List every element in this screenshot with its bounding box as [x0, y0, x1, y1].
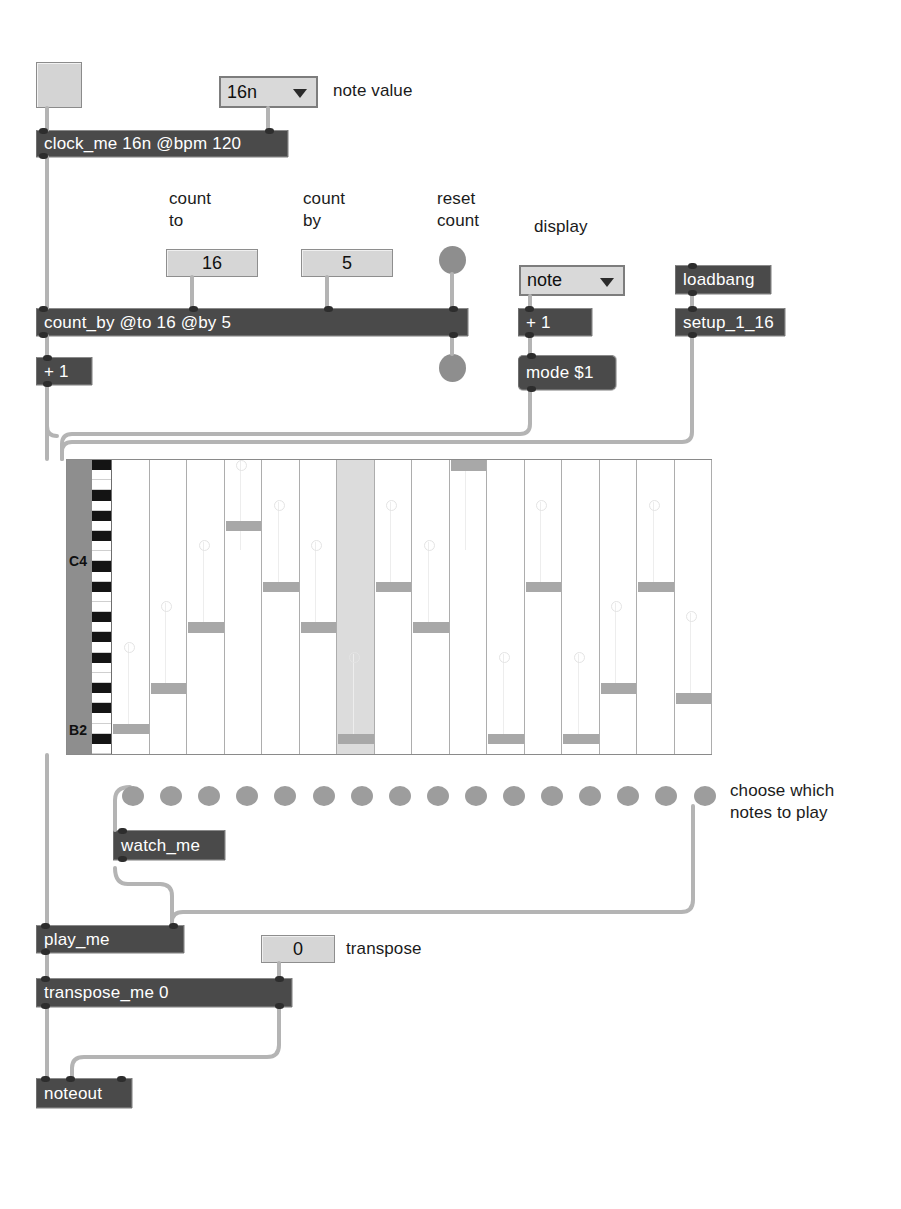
- piano-white-key[interactable]: [92, 673, 111, 683]
- piano-black-key[interactable]: [92, 561, 111, 571]
- note-toggle-dot[interactable]: [617, 786, 639, 806]
- sequencer-note[interactable]: [263, 582, 299, 593]
- piano-white-key[interactable]: [92, 551, 111, 561]
- note-head: [349, 652, 360, 663]
- note-toggle-dot[interactable]: [313, 786, 335, 806]
- piano-black-key[interactable]: [92, 734, 111, 744]
- sequencer-note[interactable]: [488, 734, 524, 745]
- object-watch-me[interactable]: watch_me: [113, 830, 225, 860]
- object-plus-one-display[interactable]: + 1: [518, 308, 592, 336]
- note-toggle-dot[interactable]: [198, 786, 220, 806]
- piano-white-key[interactable]: [92, 470, 111, 480]
- sequencer-step-column[interactable]: [412, 460, 450, 754]
- note-toggle-dot[interactable]: [236, 786, 258, 806]
- start-toggle[interactable]: [36, 62, 82, 108]
- object-noteout[interactable]: noteout: [36, 1078, 132, 1108]
- piano-white-key[interactable]: [92, 521, 111, 531]
- reset-bang-bottom[interactable]: [439, 354, 466, 382]
- piano-black-key[interactable]: [92, 531, 111, 541]
- note-toggle-dot[interactable]: [274, 786, 296, 806]
- note-toggle-dot[interactable]: [579, 786, 601, 806]
- piano-white-key[interactable]: [92, 713, 111, 723]
- sequencer-step-column[interactable]: [225, 460, 263, 754]
- count-to-comment: count to: [169, 188, 211, 232]
- note-toggle-dot[interactable]: [541, 786, 563, 806]
- sequencer-step-column[interactable]: [187, 460, 225, 754]
- sequencer-grid[interactable]: [112, 460, 711, 754]
- object-play-me[interactable]: play_me: [36, 925, 184, 953]
- note-toggle-dot[interactable]: [655, 786, 677, 806]
- display-mode-menu[interactable]: note: [519, 265, 625, 296]
- sequencer-note[interactable]: [188, 622, 224, 633]
- reset-bang-top[interactable]: [439, 246, 466, 274]
- object-count-by[interactable]: count_by @to 16 @by 5: [36, 308, 468, 336]
- piano-white-key[interactable]: [92, 693, 111, 703]
- piano-black-key[interactable]: [92, 511, 111, 521]
- piano-white-key[interactable]: [92, 663, 111, 673]
- piano-white-key[interactable]: [92, 642, 111, 652]
- object-plus-one-left[interactable]: + 1: [36, 357, 92, 385]
- piano-white-key[interactable]: [92, 622, 111, 632]
- piano-white-key[interactable]: [92, 480, 111, 490]
- sequencer-note[interactable]: [563, 734, 599, 745]
- piano-white-key[interactable]: [92, 724, 111, 734]
- outlet: [39, 332, 48, 338]
- note-toggle-dot[interactable]: [503, 786, 525, 806]
- piano-white-key[interactable]: [92, 501, 111, 511]
- sequencer-note[interactable]: [638, 582, 674, 593]
- piano-black-key[interactable]: [92, 703, 111, 713]
- sequencer-note[interactable]: [451, 460, 487, 471]
- piano-keyboard[interactable]: [92, 460, 112, 754]
- note-toggle-dot[interactable]: [389, 786, 411, 806]
- object-clock-me[interactable]: clock_me 16n @bpm 120: [36, 130, 288, 157]
- transpose-number[interactable]: 0: [261, 935, 335, 963]
- piano-black-key[interactable]: [92, 460, 111, 470]
- piano-black-key[interactable]: [92, 582, 111, 592]
- sequencer-note[interactable]: [151, 683, 187, 694]
- piano-white-key[interactable]: [92, 744, 111, 754]
- sequencer-step-column[interactable]: [675, 460, 713, 754]
- step-sequencer[interactable]: C4 B2: [66, 459, 712, 755]
- sequencer-step-column[interactable]: [337, 460, 375, 754]
- piano-white-key[interactable]: [92, 541, 111, 551]
- display-comment: display: [534, 216, 588, 238]
- note-toggle-dot[interactable]: [465, 786, 487, 806]
- piano-white-key[interactable]: [92, 572, 111, 582]
- piano-black-key[interactable]: [92, 490, 111, 500]
- piano-black-key[interactable]: [92, 612, 111, 622]
- note-toggle-dot[interactable]: [694, 786, 716, 806]
- piano-white-key[interactable]: [92, 602, 111, 612]
- count-by-number[interactable]: 5: [301, 249, 393, 277]
- object-loadbang[interactable]: loadbang: [675, 265, 771, 294]
- note-value-menu[interactable]: 16n: [219, 76, 318, 108]
- sequencer-step-column[interactable]: [562, 460, 600, 754]
- sequencer-note[interactable]: [676, 693, 712, 704]
- object-loadbang-text: loadbang: [683, 271, 755, 288]
- piano-black-key[interactable]: [92, 653, 111, 663]
- piano-black-key[interactable]: [92, 683, 111, 693]
- object-transpose-me[interactable]: transpose_me 0: [36, 978, 292, 1007]
- piano-white-key[interactable]: [92, 592, 111, 602]
- note-toggle-dot[interactable]: [122, 786, 144, 806]
- sequencer-note[interactable]: [376, 582, 412, 593]
- sequencer-step-column[interactable]: [487, 460, 525, 754]
- sequencer-note[interactable]: [226, 521, 262, 532]
- sequencer-note[interactable]: [413, 622, 449, 633]
- note-head: [424, 540, 435, 551]
- piano-black-key[interactable]: [92, 632, 111, 642]
- object-setup[interactable]: setup_1_16: [675, 308, 785, 336]
- note-toggle-dot[interactable]: [160, 786, 182, 806]
- sequencer-step-column[interactable]: [300, 460, 338, 754]
- sequencer-note[interactable]: [338, 734, 374, 745]
- note-toggle-dot[interactable]: [427, 786, 449, 806]
- count-to-number[interactable]: 16: [166, 249, 258, 277]
- sequencer-step-column[interactable]: [450, 460, 488, 754]
- sequencer-note[interactable]: [526, 582, 562, 593]
- note-toggle-dot[interactable]: [351, 786, 373, 806]
- sequencer-note[interactable]: [601, 683, 637, 694]
- message-mode[interactable]: mode $1: [518, 355, 616, 390]
- chevron-down-icon: [293, 89, 307, 98]
- sequencer-note[interactable]: [113, 724, 149, 735]
- sequencer-step-column[interactable]: [112, 460, 150, 754]
- sequencer-note[interactable]: [301, 622, 337, 633]
